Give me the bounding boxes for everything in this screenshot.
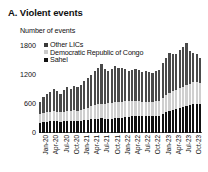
bar-segment-sahel bbox=[73, 121, 75, 133]
bar-segment-drc bbox=[117, 102, 119, 118]
bar-segment-other-lics bbox=[179, 50, 181, 88]
bar-segment-sahel bbox=[87, 120, 89, 133]
bar-segment-sahel bbox=[148, 116, 150, 133]
y-axis-tick-label: 1200 bbox=[20, 71, 36, 78]
bar-segment-drc bbox=[94, 105, 96, 119]
bar-segment-other-lics bbox=[138, 70, 140, 101]
bar-segment-drc bbox=[104, 104, 106, 119]
bar-segment-drc bbox=[196, 82, 198, 104]
bar-segment-sahel bbox=[134, 116, 136, 133]
bar bbox=[131, 70, 133, 133]
bar-segment-other-lics bbox=[196, 54, 198, 81]
bar-segment-other-lics bbox=[107, 71, 109, 103]
bar-segment-sahel bbox=[121, 118, 123, 133]
bar-segment-drc bbox=[168, 93, 170, 111]
bar-segment-other-lics bbox=[94, 71, 96, 105]
bar-segment-drc bbox=[80, 110, 82, 121]
bar bbox=[107, 71, 109, 133]
bar-segment-sahel bbox=[49, 121, 51, 133]
bar-segment-drc bbox=[100, 104, 102, 119]
bar bbox=[155, 71, 157, 133]
legend-swatch-icon bbox=[44, 50, 48, 54]
bar-segment-drc bbox=[148, 102, 150, 116]
bar-segment-drc bbox=[111, 103, 113, 119]
bar-segment-drc bbox=[179, 88, 181, 108]
bar-segment-sahel bbox=[168, 111, 170, 133]
bar bbox=[104, 69, 106, 133]
bar bbox=[117, 68, 119, 133]
bar-segment-drc bbox=[66, 111, 68, 121]
bar-segment-drc bbox=[138, 101, 140, 116]
x-axis-tick-label: Oct-23 bbox=[196, 135, 202, 154]
bar bbox=[66, 87, 68, 133]
bar bbox=[134, 69, 136, 133]
bar-segment-drc bbox=[182, 87, 184, 107]
y-axis-unit-label: Number of events bbox=[20, 26, 75, 35]
bar-segment-other-lics bbox=[42, 97, 44, 113]
legend-swatch-icon bbox=[44, 43, 48, 47]
bar bbox=[179, 50, 181, 133]
bar-segment-drc bbox=[165, 95, 167, 112]
bar bbox=[49, 92, 51, 133]
bar-segment-drc bbox=[172, 91, 174, 110]
bar-segment-other-lics bbox=[97, 68, 99, 105]
bar-segment-sahel bbox=[151, 116, 153, 133]
chart-legend: Other LICs Democratic Republic of Congo … bbox=[44, 41, 143, 64]
bar-segment-sahel bbox=[117, 118, 119, 133]
bar bbox=[141, 72, 143, 133]
bar bbox=[59, 94, 61, 133]
bar-segment-other-lics bbox=[76, 87, 78, 111]
bar-segment-drc bbox=[128, 101, 130, 116]
bar bbox=[192, 53, 194, 133]
bar-segment-sahel bbox=[138, 116, 140, 133]
bar-segment-drc bbox=[189, 84, 191, 105]
bar bbox=[97, 68, 99, 133]
bar-segment-other-lics bbox=[73, 86, 75, 111]
bar-segment-other-lics bbox=[175, 54, 177, 90]
bar-segment-drc bbox=[158, 101, 160, 116]
bar-segment-sahel bbox=[155, 116, 157, 133]
bar-segment-other-lics bbox=[100, 64, 102, 103]
bar-segment-other-lics bbox=[59, 94, 61, 113]
bar-segment-other-lics bbox=[128, 71, 130, 101]
bar-segment-other-lics bbox=[124, 69, 126, 101]
bar bbox=[175, 54, 177, 133]
bar-segment-other-lics bbox=[104, 69, 106, 104]
x-axis-tick-label: Apr-20 bbox=[53, 135, 59, 154]
bar-segment-sahel bbox=[97, 119, 99, 134]
bar bbox=[111, 69, 113, 133]
bar-segment-drc bbox=[46, 112, 48, 121]
bar bbox=[76, 87, 78, 133]
x-axis-tick-label: Apr-21 bbox=[94, 135, 100, 154]
x-axis-tick-label: Jan-23 bbox=[166, 135, 172, 155]
bar bbox=[165, 58, 167, 133]
bar-segment-other-lics bbox=[56, 91, 58, 112]
bar-segment-sahel bbox=[42, 122, 44, 133]
bar bbox=[145, 71, 147, 133]
bar-segment-other-lics bbox=[49, 92, 51, 112]
bar-segment-drc bbox=[124, 101, 126, 117]
bar-segment-other-lics bbox=[168, 53, 170, 93]
bar-segment-other-lics bbox=[46, 94, 48, 113]
x-axis-tick-label: Oct-21 bbox=[115, 135, 121, 154]
page-title: A. Violent events bbox=[8, 7, 83, 18]
bar bbox=[189, 51, 191, 133]
bar bbox=[168, 53, 170, 133]
bar bbox=[199, 58, 201, 133]
bar-segment-other-lics bbox=[121, 68, 123, 101]
bar-segment-other-lics bbox=[80, 85, 82, 110]
bar-segment-sahel bbox=[131, 116, 133, 133]
bar-segment-sahel bbox=[53, 121, 55, 133]
bar-segment-drc bbox=[134, 101, 136, 116]
bar-segment-sahel bbox=[162, 114, 164, 133]
bar-segment-drc bbox=[162, 98, 164, 114]
bar-segment-sahel bbox=[182, 107, 184, 133]
bar-segment-other-lics bbox=[199, 58, 201, 84]
bar-segment-other-lics bbox=[90, 75, 92, 106]
bar-segment-sahel bbox=[175, 109, 177, 133]
bar-segment-drc bbox=[199, 83, 201, 104]
bar-segment-other-lics bbox=[165, 58, 167, 96]
bar-segment-drc bbox=[107, 103, 109, 118]
bar-segment-drc bbox=[185, 85, 187, 106]
bar-segment-other-lics bbox=[134, 69, 136, 101]
